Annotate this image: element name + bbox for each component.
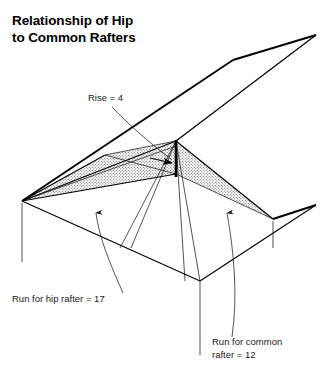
hip-run-leader-line <box>96 213 123 293</box>
roof-framing-figure: Relationship of Hip to Common Rafters Ri… <box>0 0 335 378</box>
common-run-label-line2: rafter = 12 <box>212 349 256 360</box>
figure-title-line2: to Common Rafters <box>12 30 136 45</box>
hip-run-label: Run for hip rafter = 17 <box>12 293 105 304</box>
building-eave-lines <box>22 201 316 355</box>
common-run-label-line1: Run for common <box>212 336 282 347</box>
rise-label: Rise = 4 <box>88 92 123 103</box>
figure-title-line1: Relationship of Hip <box>12 13 133 28</box>
common-run-leader-line <box>227 213 235 337</box>
roof-diagram-svg: Relationship of Hip to Common Rafters Ri… <box>0 0 335 378</box>
